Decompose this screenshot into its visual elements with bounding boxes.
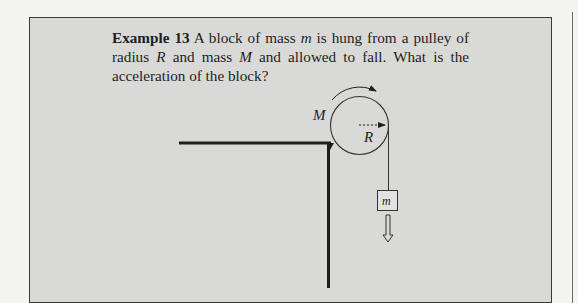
- down-arrow-icon: [383, 215, 393, 242]
- pulley-mass-label: M: [312, 107, 327, 123]
- block-label: m: [382, 194, 391, 208]
- radius-label: R: [363, 129, 373, 145]
- pulley-diagram: M R m: [0, 0, 578, 303]
